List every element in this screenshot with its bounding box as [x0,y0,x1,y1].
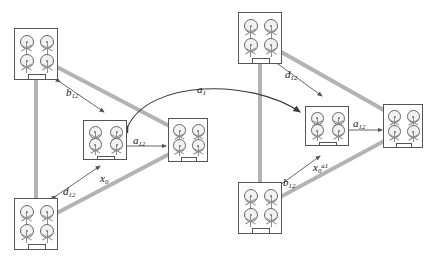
wheel-hub [394,131,396,133]
wheel-hub [250,195,252,197]
robot-node-left-top [14,28,58,80]
label-a12-right: a12 [353,117,365,130]
diagram-canvas: a1b12d12a12x0d12b12a12x0a1 [0,0,438,278]
label-x0-star-right: x0a1 [313,161,328,174]
wheel-hub [412,131,414,133]
label-b12-right: b12 [283,176,295,189]
wheel-icon [388,110,401,123]
label-x0-left: x0 [100,172,108,185]
wheel-icon [89,126,102,139]
wheel-hub [270,44,272,46]
wheel-icon [244,189,258,203]
wheel-icon [192,139,205,152]
wheel-hub [94,131,96,133]
wheel-icon [173,139,186,152]
robot-base-tab [97,156,115,160]
wheel-icon [40,35,54,49]
wheel-hub [46,60,48,62]
wheel-icon [244,38,258,52]
wheel-icon [244,208,258,222]
wheel-icon [40,224,54,238]
wheel-icon [20,54,34,68]
wheel-icon [40,205,54,219]
vector-layer [0,0,438,278]
wheel-icon [332,112,345,125]
wheel-hub [46,41,48,43]
robot-node-right-middle [305,106,349,146]
wheel-hub [338,117,340,119]
wheel-hub [197,130,199,132]
wheel-hub [250,44,252,46]
wheel-hub [270,25,272,27]
wheel-hub [179,145,181,147]
robot-base-tab [252,58,270,64]
wheel-hub [26,41,28,43]
wheel-icon [264,19,278,33]
wheel-hub [26,230,28,232]
wheel-icon [89,138,102,151]
wheel-icon [311,112,324,125]
label-d12-left: d12 [63,185,75,198]
wheel-icon [110,126,123,139]
robot-base-tab [28,244,46,250]
label-a1: a1 [197,83,206,96]
wheel-icon [244,19,258,33]
wheel-hub [26,211,28,213]
wheel-hub [179,130,181,132]
label-a12-left: a12 [133,134,145,147]
label-d12-right: d12 [285,68,297,81]
wheel-hub [316,130,318,132]
bidirectional-arc-a1 [128,89,300,126]
wheel-icon [264,208,278,222]
robot-node-left-middle [83,120,127,160]
wheel-icon [110,138,123,151]
wheel-hub [46,211,48,213]
wheel-icon [40,54,54,68]
wheel-hub [94,144,96,146]
wheel-hub [412,116,414,118]
robot-base-tab [28,74,46,80]
robot-node-left-bottom [14,198,58,250]
label-b12-left: b12 [66,86,78,99]
wheel-hub [250,214,252,216]
robot-node-right-top [238,12,282,64]
wheel-icon [264,38,278,52]
wheel-hub [46,230,48,232]
wheel-icon [264,189,278,203]
wheel-hub [338,130,340,132]
robot-base-tab [252,228,270,234]
wheel-icon [311,124,324,137]
wheel-icon [192,124,205,137]
robot-base-tab [319,142,337,146]
wheel-hub [270,214,272,216]
robot-node-right-bottom [238,182,282,234]
robot-node-left-right [168,118,208,162]
wheel-hub [250,25,252,27]
wheel-icon [332,124,345,137]
wheel-icon [407,110,420,123]
robot-base-tab [181,157,197,162]
wheel-hub [316,117,318,119]
wheel-hub [116,131,118,133]
wheel-icon [20,224,34,238]
wheel-hub [197,145,199,147]
wheel-icon [173,124,186,137]
wheel-hub [394,116,396,118]
robot-node-right-right [383,104,423,148]
wheel-icon [407,125,420,138]
wheel-hub [116,144,118,146]
robot-base-tab [396,143,412,148]
wheel-hub [270,195,272,197]
wheel-hub [26,60,28,62]
wheel-icon [20,205,34,219]
wheel-icon [388,125,401,138]
coupling-arc [128,89,300,126]
wheel-icon [20,35,34,49]
